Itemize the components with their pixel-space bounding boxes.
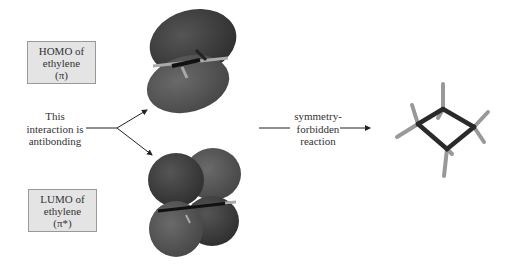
cyclobutane-icon	[397, 84, 488, 176]
branch-arrows	[86, 110, 152, 155]
homo-orbital-icon	[140, 0, 244, 122]
lumo-orbital-icon	[148, 148, 241, 257]
figure-graphics	[0, 0, 517, 273]
